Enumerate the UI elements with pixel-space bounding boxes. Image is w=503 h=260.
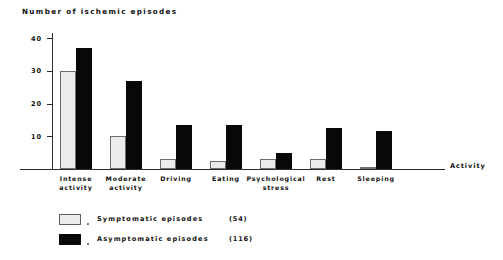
legend-separator-dot xyxy=(87,243,89,245)
y-axis-tick: 20 xyxy=(47,104,53,105)
ischemic-episodes-bar-chart: Number of ischemic episodes 10203040 Act… xyxy=(0,0,503,260)
bar-symptomatic xyxy=(160,159,176,169)
legend-label: Symptomatic episodes xyxy=(97,215,203,223)
legend-label: Asymptomatic episodes xyxy=(97,235,209,243)
y-axis-tick: 40 xyxy=(47,38,53,39)
y-axis-tick-label: 30 xyxy=(31,67,42,75)
y-axis-line xyxy=(52,33,53,170)
x-axis-category-label: Sleeping xyxy=(345,175,407,184)
bar-asymptomatic xyxy=(126,81,142,169)
x-axis-line xyxy=(20,169,445,170)
x-axis-title: Activity xyxy=(450,162,486,170)
legend-swatch xyxy=(59,234,81,245)
bar-symptomatic xyxy=(310,159,326,169)
bar-asymptomatic xyxy=(326,128,342,169)
bar-symptomatic xyxy=(60,71,76,169)
bar-asymptomatic xyxy=(376,131,392,169)
legend-count: (116) xyxy=(229,235,253,243)
bar-asymptomatic xyxy=(76,48,92,169)
y-axis-tick-label: 20 xyxy=(31,100,42,108)
legend-separator-dot xyxy=(87,223,89,225)
bar-asymptomatic xyxy=(226,125,242,169)
y-axis-tick: 30 xyxy=(47,71,53,72)
bar-symptomatic xyxy=(360,167,376,169)
bar-symptomatic xyxy=(210,161,226,169)
y-axis-tick-label: 40 xyxy=(31,35,42,43)
legend-swatch xyxy=(59,214,81,225)
bar-asymptomatic xyxy=(176,125,192,169)
legend-count: (54) xyxy=(229,215,247,223)
bar-symptomatic xyxy=(110,136,126,169)
bar-symptomatic xyxy=(260,159,276,169)
y-axis-tick: 10 xyxy=(47,136,53,137)
y-axis-tick-label: 10 xyxy=(31,133,42,141)
bar-asymptomatic xyxy=(276,153,292,169)
